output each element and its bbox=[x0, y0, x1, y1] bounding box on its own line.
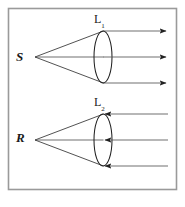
receiver-label-R: R bbox=[16, 131, 25, 144]
lens-label-L2-subscript: 2 bbox=[101, 105, 105, 113]
source-label-S: S bbox=[16, 50, 23, 63]
lens-label-L2: L2 bbox=[94, 96, 105, 111]
figure-canvas bbox=[0, 0, 185, 207]
lens-label-L1-subscript: 1 bbox=[101, 22, 105, 30]
lens-label-L1: L1 bbox=[94, 13, 105, 28]
figure-border bbox=[9, 9, 177, 190]
optical-ray-diagram-figure: S R L1 L2 bbox=[0, 0, 185, 207]
